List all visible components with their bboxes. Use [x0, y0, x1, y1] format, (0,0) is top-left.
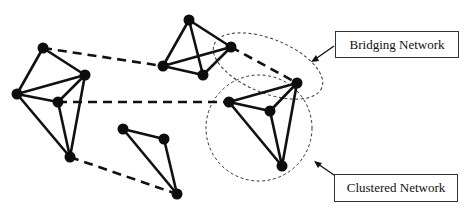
node-n — [224, 97, 235, 108]
node-c — [12, 89, 23, 100]
node-a — [38, 43, 49, 54]
node-m — [292, 78, 303, 89]
clustered-arrowhead-icon — [314, 161, 322, 168]
strong-tie-edge — [163, 66, 203, 75]
clustered-arrow — [318, 164, 334, 175]
bridging-ties — [43, 47, 297, 194]
bridging-tie-edge — [231, 47, 297, 83]
node-k — [159, 134, 170, 145]
node-e — [65, 152, 76, 163]
node-d — [53, 97, 64, 108]
node-g — [158, 61, 169, 72]
node-h — [198, 70, 209, 81]
node-b — [80, 70, 91, 81]
bridging-network-text: Bridging Network — [350, 37, 445, 53]
bridging-arrowhead-icon — [311, 55, 319, 62]
callout-arrows — [311, 46, 334, 175]
clustered-network-text: Clustered Network — [347, 180, 446, 196]
node-p — [277, 161, 288, 172]
bridging-tie-edge — [43, 48, 163, 66]
node-j — [118, 124, 129, 135]
node-f — [184, 15, 195, 26]
bridging-network-label: Bridging Network — [335, 31, 459, 58]
bridging-network-region — [204, 19, 332, 113]
node-i — [226, 42, 237, 53]
clustered-network-label: Clustered Network — [334, 174, 458, 202]
node-l — [172, 189, 183, 200]
node-o — [265, 106, 276, 117]
